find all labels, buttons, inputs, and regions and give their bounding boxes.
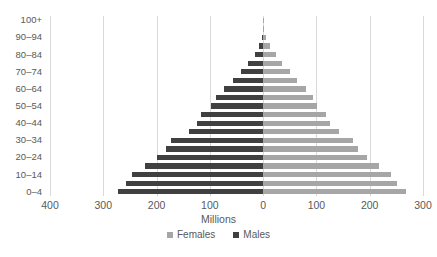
bar-female xyxy=(263,95,313,100)
pyramid-row xyxy=(50,35,423,40)
y-axis-tick-label: 30–34 xyxy=(16,135,42,145)
bar-female xyxy=(263,129,339,134)
bar-female xyxy=(263,163,379,168)
x-axis-labels: 4003002001000100200300 xyxy=(50,198,423,214)
pyramid-row xyxy=(50,129,423,134)
pyramid-row xyxy=(50,103,423,108)
pyramid-row xyxy=(50,78,423,83)
x-axis-title: Millions xyxy=(0,213,437,225)
bar-male xyxy=(248,61,263,66)
x-axis-tick-label: 400 xyxy=(41,198,59,212)
bar-male xyxy=(224,86,263,91)
bar-male xyxy=(132,172,263,177)
bar-female xyxy=(263,146,358,151)
population-pyramid-chart: 0–410–1420–2430–3440–4450–5460–6470–7480… xyxy=(0,0,437,257)
pyramid-row xyxy=(50,52,423,57)
bar-male xyxy=(157,155,263,160)
bar-male xyxy=(189,129,264,134)
bar-female xyxy=(263,172,391,177)
bar-female xyxy=(263,52,276,57)
y-axis-tick-label: 0–4 xyxy=(26,187,42,197)
x-axis-tick-label: 0 xyxy=(260,198,266,212)
bar-female xyxy=(263,35,266,40)
legend-item-males[interactable]: Males xyxy=(233,229,270,240)
pyramid-row xyxy=(50,26,423,31)
bar-male xyxy=(201,112,263,117)
pyramid-row xyxy=(50,163,423,168)
bar-female xyxy=(263,138,353,143)
y-axis-labels: 0–410–1420–2430–3440–4450–5460–6470–7480… xyxy=(0,16,46,196)
x-axis-tick-label: 300 xyxy=(95,198,113,212)
plot-area xyxy=(50,16,423,196)
bar-female xyxy=(263,103,317,108)
bar-female xyxy=(263,26,264,31)
bar-male xyxy=(255,52,264,57)
bar-male xyxy=(216,95,263,100)
bar-male xyxy=(126,181,263,186)
bar-male xyxy=(233,78,263,83)
legend-swatch-males-icon xyxy=(233,232,239,238)
x-axis-tick-label: 100 xyxy=(308,198,326,212)
legend-label-males: Males xyxy=(243,229,270,240)
pyramid-row xyxy=(50,69,423,74)
legend-label-females: Females xyxy=(177,229,215,240)
x-axis-tick-label: 200 xyxy=(361,198,379,212)
pyramid-row xyxy=(50,138,423,143)
y-axis-tick-label: 60–64 xyxy=(16,84,42,94)
bar-male xyxy=(241,69,263,74)
pyramid-row xyxy=(50,172,423,177)
pyramid-row xyxy=(50,181,423,186)
bar-female xyxy=(263,43,270,48)
gridline xyxy=(423,16,424,196)
bar-female xyxy=(263,189,406,194)
pyramid-row xyxy=(50,146,423,151)
legend-item-females[interactable]: Females xyxy=(167,229,215,240)
x-axis-tick-label: 200 xyxy=(148,198,166,212)
y-axis-tick-label: 40–44 xyxy=(16,118,42,128)
bar-female xyxy=(263,86,306,91)
bar-female xyxy=(263,18,264,23)
bar-female xyxy=(263,181,397,186)
y-axis-tick-label: 70–74 xyxy=(16,67,42,77)
bar-male xyxy=(118,189,263,194)
bar-female xyxy=(263,112,326,117)
x-axis-tick-label: 100 xyxy=(201,198,219,212)
legend-swatch-females-icon xyxy=(167,232,173,238)
y-axis-tick-label: 50–54 xyxy=(16,101,42,111)
pyramid-row xyxy=(50,121,423,126)
bar-female xyxy=(263,61,282,66)
bar-female xyxy=(263,155,367,160)
bar-female xyxy=(263,78,297,83)
bar-female xyxy=(263,121,330,126)
pyramid-row xyxy=(50,86,423,91)
y-axis-tick-label: 90–94 xyxy=(16,32,42,42)
x-axis-tick-label: 300 xyxy=(414,198,432,212)
pyramid-row xyxy=(50,95,423,100)
pyramid-row xyxy=(50,189,423,194)
pyramid-row xyxy=(50,61,423,66)
bar-male xyxy=(197,121,263,126)
y-axis-tick-label: 10–14 xyxy=(16,170,42,180)
y-axis-tick-label: 80–84 xyxy=(16,50,42,60)
y-axis-tick-label: 20–24 xyxy=(16,152,42,162)
y-axis-tick-label: 100+ xyxy=(21,15,42,25)
pyramid-row xyxy=(50,18,423,23)
bar-male xyxy=(145,163,263,168)
bar-male xyxy=(171,138,263,143)
pyramid-row xyxy=(50,43,423,48)
bar-female xyxy=(263,69,290,74)
bar-male xyxy=(211,103,263,108)
chart-legend: Females Males xyxy=(0,229,437,240)
bar-male xyxy=(166,146,264,151)
pyramid-row xyxy=(50,155,423,160)
pyramid-row xyxy=(50,112,423,117)
